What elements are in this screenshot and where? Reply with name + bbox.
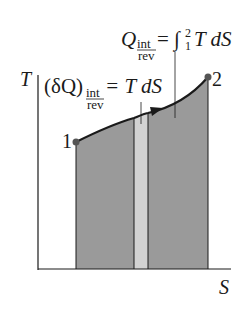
state-point-2 [205, 74, 212, 81]
area-under-curve [76, 118, 134, 269]
point-1-label: 1 [62, 130, 72, 152]
svg-text:= T dS: = T dS [105, 74, 162, 98]
svg-text:T dS: T dS [194, 27, 232, 51]
svg-text:rev: rev [87, 97, 104, 112]
svg-text:2: 2 [185, 26, 191, 40]
svg-text:(δQ): (δQ) [44, 74, 83, 98]
svg-text:= ∫: = ∫ [157, 27, 181, 52]
svg-text:Q: Q [121, 27, 136, 51]
y-axis-label: T [20, 68, 33, 90]
total-heat-equation: Q int rev = ∫ 2 1 T dS [121, 26, 232, 63]
area-under-curve-right [148, 77, 208, 269]
x-axis-label: S [219, 276, 229, 298]
differential-heat-equation: (δQ) int rev = T dS [44, 74, 162, 112]
svg-text:rev: rev [138, 48, 155, 63]
svg-text:1: 1 [185, 39, 191, 53]
state-point-1 [73, 139, 80, 146]
ts-diagram: T S 1 2 Q int rev = ∫ 2 1 T dS (δQ) int … [0, 0, 250, 311]
differential-strip [134, 113, 148, 269]
point-2-label: 2 [212, 68, 222, 90]
